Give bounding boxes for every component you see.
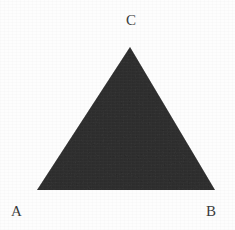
- triangle-canvas: [0, 0, 235, 230]
- vertex-label-c: C: [126, 13, 136, 28]
- triangle-figure: C A B: [0, 0, 235, 230]
- vertex-label-b: B: [206, 204, 216, 219]
- triangle-shape: [37, 47, 215, 190]
- vertex-label-a: A: [11, 204, 22, 219]
